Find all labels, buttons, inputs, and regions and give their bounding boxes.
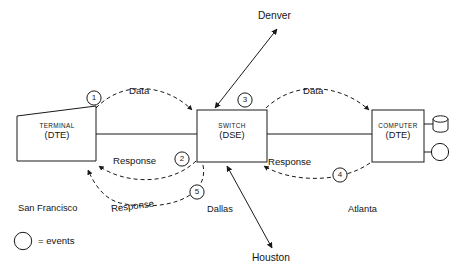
node-computer-subtitle: (DTE) (371, 131, 425, 140)
event-number-2: 2 (175, 155, 189, 163)
node-terminal-subtitle: (DTE) (24, 131, 90, 140)
node-terminal-label: TERMINAL (DTE) (24, 123, 90, 141)
node-switch-subtitle: (DSE) (199, 131, 265, 140)
node-computer-title: COMPUTER (371, 123, 425, 129)
flow-label-response-left: Response (113, 156, 156, 166)
remote-label-houston: Houston (252, 253, 290, 263)
event-number-4: 4 (333, 171, 347, 179)
city-label-san-francisco: San Francisco (18, 204, 77, 213)
tape-icon (431, 143, 448, 160)
flow-label-data-right: Data (303, 86, 323, 96)
node-computer-label: COMPUTER (DTE) (371, 123, 425, 141)
link-switch-houston (227, 166, 272, 248)
disk-icon (433, 116, 448, 132)
event-number-3: 3 (238, 96, 252, 104)
city-label-dallas: Dallas (207, 205, 233, 214)
legend-circle-icon (14, 232, 31, 249)
flow-label-data-left: Data (129, 86, 149, 96)
remote-label-denver: Denver (258, 11, 291, 21)
event-number-5: 5 (190, 188, 204, 196)
event-number-1: 1 (87, 94, 101, 102)
flow-label-response-right: Response (268, 157, 311, 167)
node-switch-title: SWITCH (199, 123, 265, 129)
node-terminal-title: TERMINAL (24, 123, 90, 129)
node-switch-label: SWITCH (DSE) (199, 123, 265, 141)
city-label-atlanta: Atlanta (348, 205, 377, 214)
legend-text: = events (38, 236, 75, 246)
network-diagram: TERMINAL (DTE) SWITCH (DSE) COMPUTER (DT… (0, 0, 449, 278)
